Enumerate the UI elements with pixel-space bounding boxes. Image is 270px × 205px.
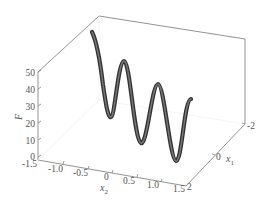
z-tick-label: 40 [26,85,36,95]
box-edge-top-back [99,16,245,39]
x2-tick-label: -0.5 [73,168,88,178]
data-series-curve [92,32,191,161]
x2-tick-label: 1.5 [173,184,185,194]
x2-tick-label: 1.0 [147,180,159,190]
x1-tick-label: 2 [187,182,192,192]
x1-tick-label: -2 [247,121,255,131]
x2-axis-label: x2 [99,182,108,196]
z-tick-label: 20 [26,119,36,129]
x2-tick-label: -1.5 [22,159,37,169]
z-ticks [38,70,41,157]
z-tick-label: 30 [26,102,36,112]
x2-tick-label: 0 [104,172,109,182]
x1-axis-label: x1 [225,153,234,167]
box-edge-top-left [38,16,99,72]
z-tick-label: 50 [26,68,36,78]
x2-tick-label: 0.5 [123,176,135,186]
axes-box [38,16,245,186]
back-plane [38,16,245,160]
chart-canvas: 50 40 30 20 10 0 F -1.5 -1.0 -0.5 0 0.5 … [0,0,270,205]
x1-ticks [212,123,245,155]
3d-line-chart: 50 40 30 20 10 0 F -1.5 -1.0 -0.5 0 0.5 … [0,0,270,205]
z-tick-label: 10 [26,136,36,146]
x2-tick-label: -1.0 [48,164,63,174]
z-axis-label: F [13,113,24,121]
x1-tick-label: 0 [216,152,221,162]
